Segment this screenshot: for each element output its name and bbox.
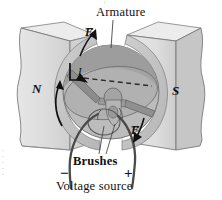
motor-figure: Armature Brushes Voltage source N S I − …	[0, 0, 222, 200]
label-armature: Armature	[96, 6, 146, 19]
label-current: I	[78, 66, 82, 77]
label-brushes: Brushes	[73, 155, 117, 168]
label-north-pole: N	[32, 82, 41, 95]
label-force-lower: F	[131, 124, 139, 136]
label-force-upper: F	[85, 26, 93, 38]
vector-arrow-overbar-upper	[85, 26, 94, 31]
motor-diagram-svg	[0, 0, 222, 200]
armature-leader-line	[111, 20, 113, 48]
label-voltage-source: Voltage source	[56, 180, 133, 193]
label-terminal-negative: −	[60, 166, 69, 181]
magnet-south-side-face	[176, 28, 205, 150]
label-south-pole: S	[172, 84, 179, 97]
label-terminal-positive: +	[124, 166, 133, 181]
commutator-segment	[108, 106, 118, 118]
vector-arrow-overbar-lower	[131, 124, 140, 129]
